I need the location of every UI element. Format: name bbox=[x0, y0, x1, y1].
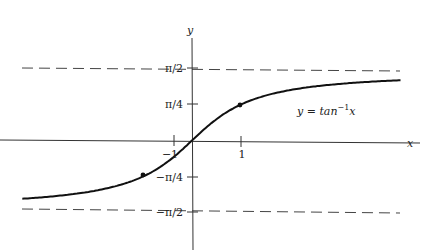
plot-area: y x π/2 π/4 −π/4 −π/2 −1 1 y = tan−1x bbox=[0, 0, 435, 251]
y-tick-label-pi4: π/4 bbox=[165, 98, 183, 111]
x-tick-label-1: 1 bbox=[239, 148, 246, 161]
x-axis-label: x bbox=[407, 137, 414, 150]
y-tick-label-negpi2: −π/2 bbox=[156, 206, 183, 219]
point-neg1 bbox=[141, 173, 146, 178]
x-tick-label-neg1: −1 bbox=[162, 148, 178, 161]
asymptote-lower bbox=[22, 209, 400, 213]
point-1 bbox=[238, 103, 243, 108]
x-axis bbox=[0, 140, 420, 143]
arctan-chart: y x π/2 π/4 −π/4 −π/2 −1 1 y = tan−1x bbox=[0, 0, 435, 251]
asymptote-upper bbox=[22, 68, 400, 71]
y-axis-label: y bbox=[186, 24, 194, 37]
y-tick-label-pi2: π/2 bbox=[165, 62, 183, 75]
arctan-curve bbox=[22, 80, 400, 198]
function-label: y = tan−1x bbox=[296, 103, 356, 118]
y-tick-label-negpi4: −π/4 bbox=[156, 171, 183, 184]
